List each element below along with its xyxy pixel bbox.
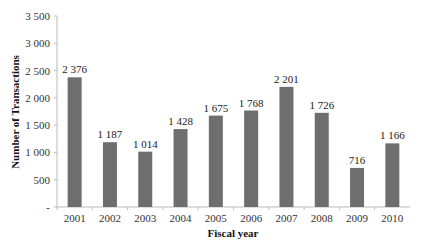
y-tick-label: 1 000 (25, 146, 50, 158)
y-tick-label: 3 000 (25, 37, 50, 49)
bar-value-label: 1 428 (168, 115, 193, 127)
y-tick-label: 1 500 (25, 119, 50, 131)
bar-value-label: 2 376 (62, 63, 87, 75)
bar-2002 (103, 142, 117, 207)
y-axis-ticks: -5001 0001 5002 0002 5003 0003 500 (25, 10, 57, 213)
bar-2007 (279, 87, 293, 207)
x-tick-label: 2005 (205, 212, 228, 224)
bar-2001 (68, 77, 82, 207)
x-tick-label: 2001 (64, 212, 86, 224)
bar-2010 (385, 143, 399, 207)
bar-value-label: 1 726 (309, 99, 334, 111)
x-axis-title: Fiscal year (207, 227, 258, 239)
bar-value-label: 1 675 (203, 102, 228, 114)
x-tick-label: 2002 (99, 212, 121, 224)
x-tick-label: 2003 (134, 212, 157, 224)
x-tick-label: 2004 (170, 212, 193, 224)
bars: 2 3761 1871 0141 4281 6751 7682 2011 726… (62, 63, 405, 207)
y-axis-title: Number of Transactions (9, 54, 21, 168)
x-tick-label: 2007 (275, 212, 298, 224)
bar-2005 (209, 116, 223, 207)
x-tick-label: 2008 (311, 212, 334, 224)
x-tick-label: 2006 (240, 212, 263, 224)
y-tick-label: 2 000 (25, 92, 50, 104)
bar-value-label: 1 187 (98, 128, 123, 140)
bar-value-label: 1 166 (380, 129, 405, 141)
bar-value-label: 2 201 (274, 73, 299, 85)
bar-2009 (350, 168, 364, 207)
bar-2004 (174, 129, 188, 207)
bar-value-label: 716 (349, 154, 366, 166)
y-tick-label: 3 500 (25, 10, 50, 22)
bar-chart: -5001 0001 5002 0002 5003 0003 500 2 376… (0, 0, 422, 252)
bar-2006 (244, 111, 258, 207)
x-axis-ticks: 2001200220032004200520062007200820092010 (57, 207, 404, 224)
y-tick-label: 500 (34, 174, 51, 186)
x-tick-label: 2009 (346, 212, 369, 224)
bar-2008 (315, 113, 329, 207)
y-tick-label: - (46, 201, 50, 213)
bar-value-label: 1 014 (133, 138, 158, 150)
x-tick-label: 2010 (381, 212, 404, 224)
bar-2003 (138, 152, 152, 207)
bar-value-label: 1 768 (239, 97, 264, 109)
y-tick-label: 2 500 (25, 65, 50, 77)
